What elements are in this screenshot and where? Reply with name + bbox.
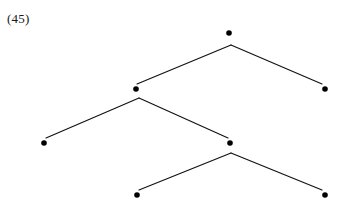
tree-node-dot <box>134 192 140 198</box>
tree-nodes-group <box>41 30 328 198</box>
tree-edge <box>139 153 231 190</box>
tree-edge <box>137 45 231 84</box>
tree-edge <box>139 98 228 138</box>
figure-container: (45) <box>0 0 344 207</box>
tree-edges-group <box>46 45 322 190</box>
tree-edge <box>46 98 139 138</box>
binary-tree-diagram <box>0 0 344 207</box>
tree-node-dot <box>226 30 232 36</box>
tree-node-dot <box>227 140 233 146</box>
tree-node-dot <box>41 140 47 146</box>
tree-edge <box>231 153 322 190</box>
tree-node-dot <box>322 86 328 92</box>
tree-node-dot <box>133 86 139 92</box>
tree-node-dot <box>322 192 328 198</box>
tree-edge <box>231 45 322 84</box>
